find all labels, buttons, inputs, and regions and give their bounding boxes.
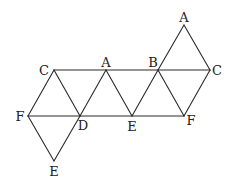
label-c-left: C [39,63,49,78]
label-e-mid: E [127,119,137,134]
edge-atop-c [184,25,210,70]
edges [28,25,210,161]
octahedron-net-diagram: A C A B C F D E F E [0,0,235,186]
edge-b-e [132,70,158,116]
edge-b-f [158,70,184,116]
label-d: D [78,118,88,133]
edge-atop-b [158,25,184,70]
edge-d-ebottom [54,116,80,161]
label-a-top: A [178,10,189,25]
edge-c-right-f [184,70,210,116]
vertex-labels: A C A B C F D E F E [15,10,222,179]
label-f-left: F [15,109,24,124]
label-a-mid: A [100,55,111,70]
edge-a-e [106,70,132,116]
edge-c-d [54,70,80,116]
edge-f-ebottom [28,116,54,161]
edge-a-d [80,70,106,116]
label-b: B [148,55,158,70]
label-c-right: C [212,63,222,78]
label-f-right: F [186,113,195,128]
label-e-bottom: E [49,164,59,179]
